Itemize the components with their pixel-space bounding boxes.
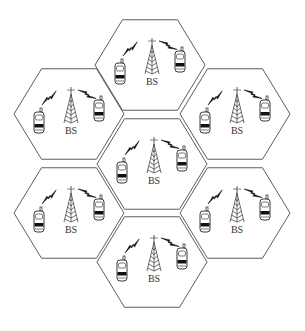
base-station-label: BS (65, 224, 77, 235)
base-station-label: BS (148, 273, 160, 284)
cells-layer: BSBSBSBSBSBSBS (14, 20, 290, 307)
base-station-label: BS (231, 125, 243, 136)
cell-upper-right: BS (180, 69, 290, 159)
base-station-label: BS (146, 76, 158, 87)
base-station-label: BS (65, 125, 77, 136)
cellular-network-diagram: BSBSBSBSBSBSBS (0, 0, 305, 331)
base-station-label: BS (231, 224, 243, 235)
base-station-label: BS (148, 175, 160, 186)
